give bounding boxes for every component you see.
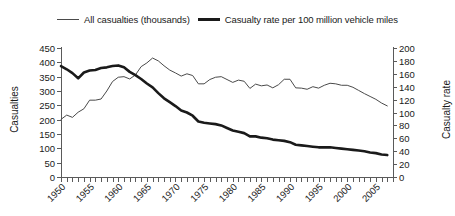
x-axis: 1950195519601965197019751980198519901995…: [45, 178, 394, 204]
x-axis-tick-label: 1985: [245, 181, 268, 204]
y-axis-left-tick-label: 350: [39, 72, 55, 83]
y-axis-right-tick-label: 80: [399, 120, 410, 131]
x-axis-tick-label: 1975: [188, 181, 211, 204]
y-axis-right-tick-label: 40: [399, 146, 410, 157]
y-axis-left-tick-label: 250: [39, 100, 55, 111]
y-axis-left-tick-label: 0: [50, 172, 55, 183]
y-axis-right-tick-label: 20: [399, 159, 410, 170]
y-axis-right-tick-label: 140: [399, 82, 415, 93]
y-axis-left-tick-label: 450: [39, 43, 55, 54]
y-axis-left-tick-label: 100: [39, 143, 55, 154]
x-axis-tick-label: 1950: [45, 181, 68, 204]
y-axis-right-tick-label: 160: [399, 69, 415, 80]
y-axis-right-tick-label: 100: [399, 108, 415, 119]
x-axis-tick-label: 1990: [274, 181, 297, 204]
y-axis-right-tick-label: 0: [399, 172, 404, 183]
x-axis-tick-label: 2000: [331, 181, 354, 204]
x-axis-tick-label: 1995: [302, 181, 325, 204]
y-axis-left-tick-label: 200: [39, 115, 55, 126]
y-axis-left-tick-label: 300: [39, 86, 55, 97]
x-axis-tick-label: 2005: [360, 181, 383, 204]
y-axis-left-tick-label: 150: [39, 129, 55, 140]
y-axis-left: 050100150200250300350400450: [39, 43, 61, 183]
chart-plot-area: 050100150200250300350400450 020406080100…: [0, 0, 455, 216]
x-axis-tick-label: 1955: [73, 181, 96, 204]
x-axis-tick-label: 1970: [159, 181, 182, 204]
x-axis-tick-label: 1965: [131, 181, 154, 204]
series-group: [61, 58, 387, 155]
y-axis-left-tick-label: 400: [39, 57, 55, 68]
series-line-casualty-rate: [61, 65, 387, 155]
y-axis-right-tick-label: 120: [399, 95, 415, 106]
y-axis-right-tick-label: 200: [399, 43, 415, 54]
y-axis-right: 020406080100120140160180200: [393, 43, 415, 183]
y-axis-right-tick-label: 180: [399, 56, 415, 67]
x-axis-tick-label: 1960: [102, 181, 125, 204]
chart-figure: All casualties (thousands) Casualty rate…: [0, 0, 455, 216]
y-axis-left-tick-label: 50: [44, 158, 55, 169]
y-axis-right-tick-label: 60: [399, 133, 410, 144]
x-axis-tick-label: 1980: [216, 181, 239, 204]
